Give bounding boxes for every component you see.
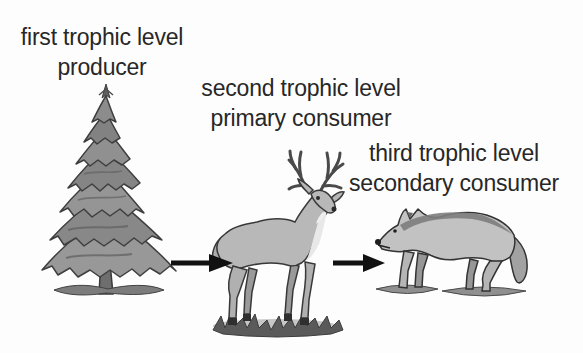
conifer-tree-illustration [36,82,183,305]
level-3-name: third trophic level [333,138,575,168]
level-1-label: first trophic level producer [0,22,204,82]
level-2-label: second trophic level primary consumer [191,73,411,133]
level-1-name: first trophic level [0,22,204,52]
level-2-name: second trophic level [191,73,411,103]
food-chain-diagram: first trophic level producer second trop… [0,0,583,353]
level-2-role: primary consumer [191,103,411,133]
level-1-role: producer [0,52,204,82]
level-3-role: secondary consumer [333,168,575,198]
arrow-right-icon [171,251,233,275]
level-3-label: third trophic level secondary consumer [333,138,575,198]
wolf-illustration [370,199,535,307]
arrow-right-icon [333,251,385,275]
deer-illustration [197,148,357,338]
